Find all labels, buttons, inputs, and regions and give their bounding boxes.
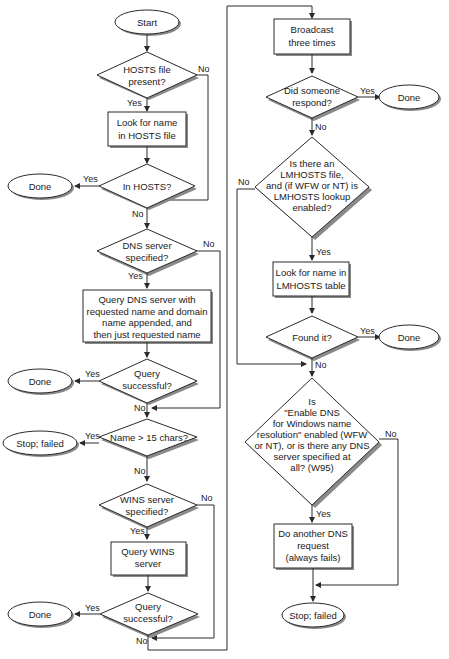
name-length-label: Name > 15 chars? [110, 432, 188, 443]
stop2-label: Stop; failed [289, 610, 337, 621]
another-dns-line1: Do another DNS [278, 528, 348, 539]
no-label: No [134, 466, 146, 476]
done2-label: Done [29, 376, 52, 387]
look-lmhosts-process: Look for name in LMHOSTS table [273, 262, 351, 298]
responded-line2: respond? [292, 97, 332, 108]
query-dns-line2: requested name and domain [87, 306, 208, 317]
no-label: No [134, 403, 146, 413]
query-dns-process: Query DNS server with requested name and… [83, 290, 213, 344]
no-label: No [198, 64, 210, 74]
start-label: Start [137, 17, 157, 28]
dns-success-decision: Query successful? [99, 359, 199, 405]
responded-decision: Did someone respond? [266, 76, 360, 121]
found-label: Found it? [292, 332, 332, 343]
done4-label: Done [398, 92, 421, 103]
wins-success-line2: successful? [123, 613, 173, 624]
another-dns-process: Do another DNS request (always fails) [274, 524, 354, 570]
done-terminal: Done [379, 325, 441, 351]
yes-label: Yes [316, 247, 331, 257]
lmhosts-line1: Is there an [290, 158, 335, 169]
broadcast-line2: three times [289, 37, 336, 48]
no-label: No [132, 209, 144, 219]
yes-label: Yes [316, 509, 331, 519]
lmhosts-line5: enabled? [292, 202, 331, 213]
dns-success-line1: Query [134, 368, 160, 379]
enable-dns-line6: server specified at [273, 451, 350, 462]
broadcast-line1: Broadcast [291, 24, 334, 35]
look-lmhosts-line2: LMHOSTS table [276, 280, 345, 291]
wins-specified-line1: WINS server [120, 494, 174, 505]
hosts-present-line1: HOSTS file [123, 64, 171, 75]
no-label: No [136, 636, 148, 646]
wins-specified-line2: specified? [126, 506, 169, 517]
broadcast-process: Broadcast three times [274, 19, 352, 56]
yes-label: Yes [360, 326, 375, 336]
no-label: No [315, 122, 327, 132]
dns-specified-line2: specified? [126, 252, 169, 263]
look-lmhosts-line1: Look for name in [276, 267, 347, 278]
query-wins-process: Query WINS server [111, 542, 188, 577]
stop-failed-terminal: Stop; failed [282, 603, 346, 629]
dns-specified-line1: DNS server [122, 240, 171, 251]
look-hosts-line1: Look for name [117, 117, 178, 128]
enable-dns-line3: for Windows name [273, 418, 352, 429]
look-hosts-line2: in HOSTS file [118, 130, 176, 141]
hosts-present-decision: HOSTS file present? [97, 52, 199, 100]
enable-dns-line4: resolution" enabled (WFW [257, 429, 368, 440]
another-dns-line2: request [297, 540, 329, 551]
no-label: No [203, 239, 215, 249]
stop-failed-terminal: Stop; failed [3, 431, 79, 457]
query-wins-line2: server [135, 558, 161, 569]
query-dns-line4: then just requested name [93, 329, 200, 340]
dns-specified-decision: DNS server specified? [97, 229, 199, 276]
lmhosts-line2: LMHOSTS file, [280, 169, 343, 180]
done3-label: Done [29, 609, 52, 620]
no-label: No [315, 360, 327, 370]
yes-label: Yes [127, 98, 142, 108]
yes-label: Yes [85, 603, 100, 613]
done-terminal: Done [379, 85, 441, 111]
query-dns-line1: Query DNS server with [98, 294, 195, 305]
enable-dns-line5: or NT), or is there any DNS [254, 440, 369, 451]
flowchart: Start HOSTS file present? No Yes Look fo… [0, 0, 449, 659]
enable-dns-line1: Is [308, 396, 316, 407]
query-wins-line1: Query WINS [121, 546, 174, 557]
lmhosts-line4: LMHOSTS lookup [274, 191, 351, 202]
hosts-present-line2: present? [129, 76, 166, 87]
no-label: No [385, 429, 397, 439]
another-dns-line3: (always fails) [286, 552, 341, 563]
look-hosts-process: Look for name in HOSTS file [108, 112, 188, 148]
done-terminal: Done [8, 174, 74, 200]
yes-label: Yes [85, 431, 100, 441]
yes-label: Yes [85, 369, 100, 379]
done1-label: Done [29, 181, 52, 192]
yes-label: Yes [360, 86, 375, 96]
wins-success-line1: Query [135, 601, 161, 612]
start-terminal: Start [115, 10, 181, 36]
yes-label: Yes [83, 174, 98, 184]
name-length-decision: Name > 15 chars? [99, 419, 199, 459]
found-decision: Found it? [266, 316, 360, 361]
enable-dns-decision: Is "Enable DNS for Windows name resoluti… [245, 378, 382, 508]
lmhosts-line3: and (if WFW or NT) is [266, 180, 358, 191]
no-label: No [201, 493, 213, 503]
done-terminal: Done [8, 602, 74, 628]
done-terminal: Done [8, 369, 74, 395]
no-label: No [238, 177, 250, 187]
yes-label: Yes [130, 526, 145, 536]
wins-specified-decision: WINS server specified? [99, 484, 199, 530]
dns-success-line2: successful? [122, 380, 172, 391]
done5-label: Done [398, 332, 421, 343]
query-dns-line3: name appended, and [102, 317, 192, 328]
enable-dns-line7: all? (W95) [290, 462, 333, 473]
enable-dns-line2: "Enable DNS [284, 407, 340, 418]
yes-label: Yes [128, 271, 143, 281]
lmhosts-decision: Is there an LMHOSTS file, and (if WFW or… [255, 137, 372, 240]
responded-line1: Did someone [284, 85, 340, 96]
in-hosts-label: In HOSTS? [123, 181, 172, 192]
wins-success-decision: Query successful? [100, 593, 200, 638]
stop1-label: Stop; failed [16, 438, 64, 449]
in-hosts-decision: In HOSTS? [99, 164, 197, 210]
